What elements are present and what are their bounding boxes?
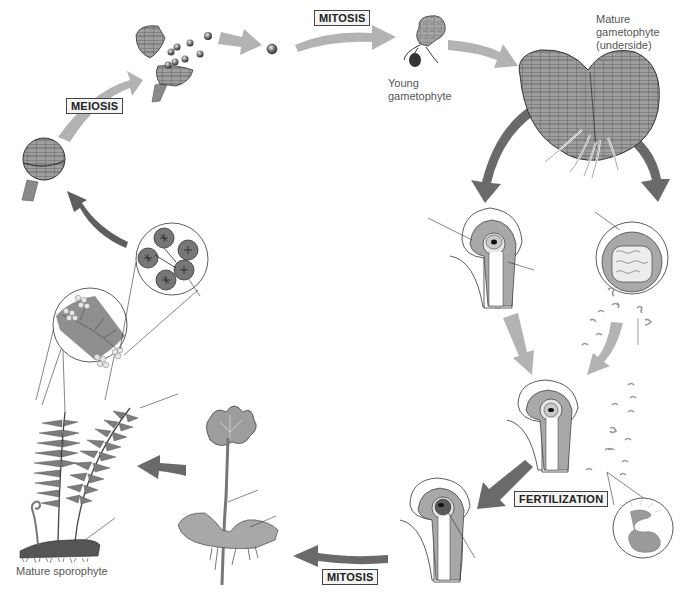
label-line: gametophyte bbox=[596, 26, 660, 39]
sperm-magnified bbox=[607, 472, 673, 558]
arrow-to-mature-sporophyte bbox=[137, 455, 186, 479]
sporangium-releasing-spores bbox=[136, 26, 212, 102]
stage-label-meiosis: MEIOSIS bbox=[66, 98, 123, 114]
label-line: Young bbox=[388, 77, 452, 90]
stage-label-fertilization: FERTILIZATION bbox=[514, 491, 608, 507]
zygote-in-archegonium bbox=[400, 478, 475, 582]
fern-life-cycle-diagram: MEIOSIS MITOSIS FERTILIZATION MITOSIS Yo… bbox=[0, 0, 692, 593]
arrow-sperm-down bbox=[587, 322, 623, 375]
stage-label-mitosis-top: MITOSIS bbox=[314, 10, 370, 26]
label-young-gametophyte: Young gametophyte bbox=[388, 77, 452, 103]
mature-gametophyte bbox=[519, 50, 659, 178]
label-line: Mature bbox=[596, 13, 660, 26]
arrow-mitosis-top bbox=[295, 25, 396, 52]
stage-label-mitosis-bottom: MITOSIS bbox=[322, 569, 378, 585]
label-line: gametophyte bbox=[388, 90, 452, 103]
young-sporophyte bbox=[178, 406, 278, 585]
label-line: Mature sporophyte bbox=[16, 565, 108, 578]
arrow-mitosis-bottom bbox=[293, 545, 388, 567]
mature-sporophyte-fern bbox=[20, 394, 178, 563]
archegonium bbox=[428, 208, 534, 308]
sori-on-frond-magnified bbox=[36, 288, 127, 412]
arrow-young-to-mature bbox=[448, 40, 518, 68]
arrow-archegonium-down bbox=[503, 313, 534, 375]
label-mature-sporophyte: Mature sporophyte bbox=[16, 565, 108, 578]
spores bbox=[204, 32, 212, 40]
antheridium bbox=[595, 212, 668, 294]
sporangium-closed bbox=[22, 138, 65, 201]
label-mature-gametophyte: Mature gametophyte (underside) bbox=[596, 13, 660, 52]
young-gametophyte bbox=[404, 16, 445, 67]
label-line: (underside) bbox=[596, 39, 660, 52]
archegonium-with-egg bbox=[507, 380, 578, 472]
arrow-to-sporangium bbox=[67, 191, 128, 248]
sperm-cells bbox=[582, 288, 651, 475]
spore bbox=[267, 44, 277, 54]
arrow-spore bbox=[218, 29, 262, 55]
sporangia-magnified bbox=[120, 223, 208, 355]
